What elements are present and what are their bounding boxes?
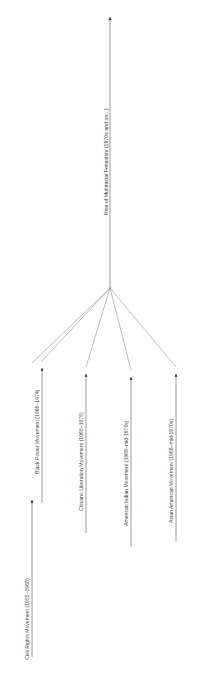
connector-black-power bbox=[42, 288, 110, 361]
diagram-vector-layer bbox=[0, 0, 211, 674]
branch-arrow-group bbox=[32, 368, 176, 657]
branch-connector-group bbox=[32, 288, 176, 370]
diagram-canvas: Rise of Multiracial Feminism (1970s and … bbox=[0, 0, 211, 674]
